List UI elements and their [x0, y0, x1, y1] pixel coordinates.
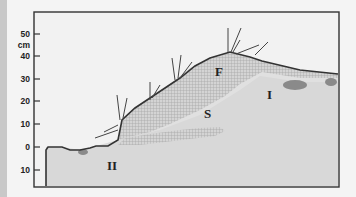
region-label-s: S	[204, 106, 211, 122]
axis-tick-label: 10	[8, 119, 30, 129]
dark-patch	[325, 78, 337, 86]
axis-tick-label: 10	[8, 165, 30, 175]
axis-tick-label: 0	[8, 142, 30, 152]
dark-patch	[283, 80, 307, 90]
axis-tick-label: 20	[8, 96, 30, 106]
region-label-ii: II	[107, 158, 117, 174]
soil-profile-diagram	[0, 0, 356, 197]
axis-tick-label: 40	[8, 51, 30, 61]
axis-unit-label: cm	[8, 40, 30, 50]
axis-tick-label: 30	[8, 74, 30, 84]
axis-tick-label: 50	[8, 29, 30, 39]
region-label-i: I	[267, 87, 272, 103]
region-label-f: F	[215, 64, 223, 80]
